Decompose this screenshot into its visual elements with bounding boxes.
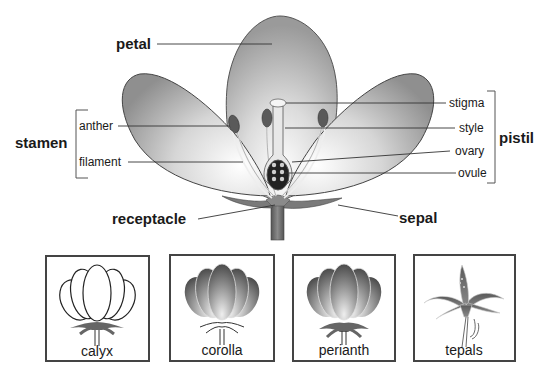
panel-label-perianth: perianth xyxy=(319,342,370,358)
stigma xyxy=(270,99,286,107)
label-petal: petal xyxy=(116,35,151,52)
label-pistil: pistil xyxy=(499,129,534,146)
flower-diagram: petal stamen anther filament receptacle … xyxy=(0,0,556,368)
panel-corolla: corolla xyxy=(170,255,274,361)
label-filament: filament xyxy=(79,155,122,169)
label-ovary: ovary xyxy=(455,144,484,158)
sepal-right xyxy=(284,198,342,208)
panel-tepals: tepals xyxy=(414,255,515,361)
anther-right xyxy=(318,109,328,127)
label-style: style xyxy=(459,121,484,135)
panel-perianth: perianth xyxy=(293,255,395,361)
label-ovule: ovule xyxy=(458,166,487,180)
pistil-bracket xyxy=(487,91,495,183)
panel-label-tepals: tepals xyxy=(445,342,482,358)
label-anther: anther xyxy=(79,119,113,133)
label-receptacle: receptacle xyxy=(112,210,186,227)
label-sepal: sepal xyxy=(399,209,437,226)
anther-center xyxy=(262,109,272,127)
label-stamen: stamen xyxy=(15,134,68,151)
ovary xyxy=(267,160,289,190)
label-stigma: stigma xyxy=(449,96,485,110)
panel-calyx: calyx xyxy=(46,256,149,361)
panel-label-corolla: corolla xyxy=(201,342,242,358)
sepal-left xyxy=(222,196,272,208)
panel-label-calyx: calyx xyxy=(81,343,113,359)
